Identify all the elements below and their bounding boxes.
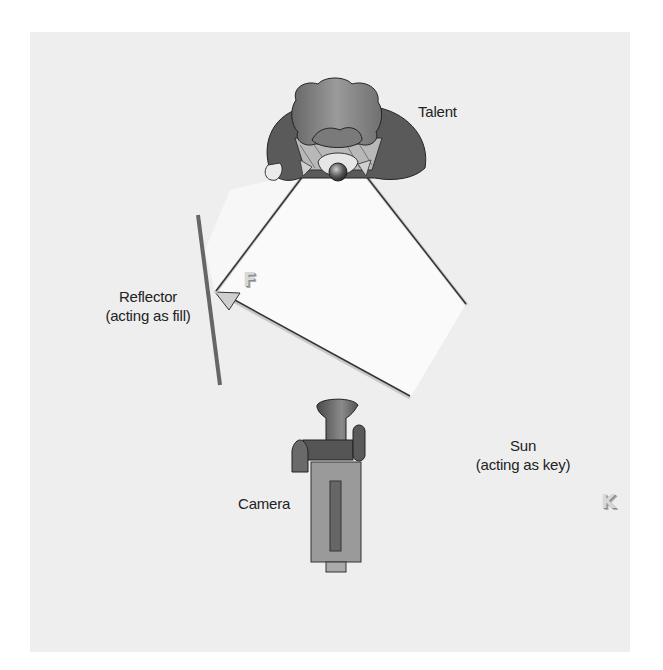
fill-marker: F bbox=[243, 268, 256, 290]
reflector-label: Reflector (acting as fill) bbox=[88, 287, 208, 325]
key-marker: K bbox=[601, 490, 616, 512]
lighting-diagram bbox=[0, 0, 663, 670]
reflector-label-title: Reflector bbox=[88, 287, 208, 306]
head-ball bbox=[329, 163, 347, 181]
sun-label-title: Sun bbox=[463, 436, 583, 455]
talent-label: Talent bbox=[418, 102, 457, 121]
camera-label: Camera bbox=[238, 494, 290, 513]
talent-figure bbox=[265, 78, 426, 181]
reflector-label-role: (acting as fill) bbox=[88, 306, 208, 325]
sun-label: Sun (acting as key) bbox=[463, 436, 583, 474]
camera-figure bbox=[292, 399, 365, 572]
sun-label-role: (acting as key) bbox=[463, 455, 583, 474]
